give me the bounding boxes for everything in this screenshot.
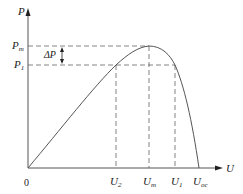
delta-p-label: ΔP	[44, 50, 56, 60]
um-label: Um	[143, 176, 156, 189]
u2-label: U2	[110, 176, 121, 189]
pu-curve	[28, 46, 199, 168]
u1-label: U1	[171, 176, 182, 189]
y-axis-arrow-icon	[26, 8, 31, 16]
x-axis-label: U	[226, 163, 234, 174]
x-axis-arrow-icon	[215, 166, 223, 171]
uoc-label: Uoc	[193, 176, 208, 189]
pm-label: Pm	[12, 40, 24, 53]
origin-label: 0	[24, 178, 29, 188]
y-axis-label: P	[18, 6, 25, 17]
delta-p-arrow-down-icon	[60, 59, 64, 64]
pu-curve-diagram	[0, 0, 243, 194]
delta-p-arrow-up-icon	[60, 47, 64, 52]
p1-label: P1	[14, 59, 24, 72]
